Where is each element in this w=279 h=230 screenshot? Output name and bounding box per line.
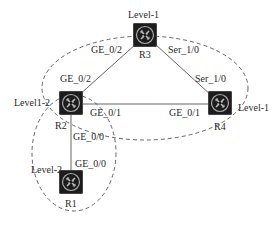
r4-ge01-interface-label: GE_0/1 [169, 107, 200, 118]
router-icon [133, 23, 157, 47]
r2-ge00-interface-label: GE_0/0 [73, 131, 104, 142]
router-icon [59, 170, 83, 194]
r3-ge02-interface-label: GE_0/2 [91, 44, 122, 55]
router-icon [208, 91, 232, 115]
r4-name-label: R4 [214, 121, 226, 132]
r2-level-label: Level1-2 [14, 97, 50, 108]
network-topology-diagram: Level-1 Level1-2 Level-1 Level-2 R3 R2 R… [0, 0, 279, 230]
r2-ge02-interface-label: GE_0/2 [60, 73, 91, 84]
r1-name-label: R1 [65, 198, 77, 209]
router-r4[interactable] [208, 91, 232, 115]
r2-name-label: R2 [55, 120, 67, 131]
r3-name-label: R3 [139, 49, 151, 60]
r2-ge01-interface-label: GE_0/1 [90, 107, 121, 118]
r4-ser10-interface-label: Ser_1/0 [195, 73, 226, 84]
r1-ge00-interface-label: GE_0/0 [75, 158, 106, 169]
r1-level-label: Level-2 [31, 164, 62, 175]
r3-ser10-interface-label: Ser_1/0 [168, 44, 199, 55]
router-r3[interactable] [133, 23, 157, 47]
router-icon [59, 91, 83, 115]
router-r1[interactable] [59, 170, 83, 194]
router-r2[interactable] [59, 91, 83, 115]
r3-level-label: Level-1 [128, 9, 159, 20]
r4-level-label: Level-1 [238, 102, 269, 113]
